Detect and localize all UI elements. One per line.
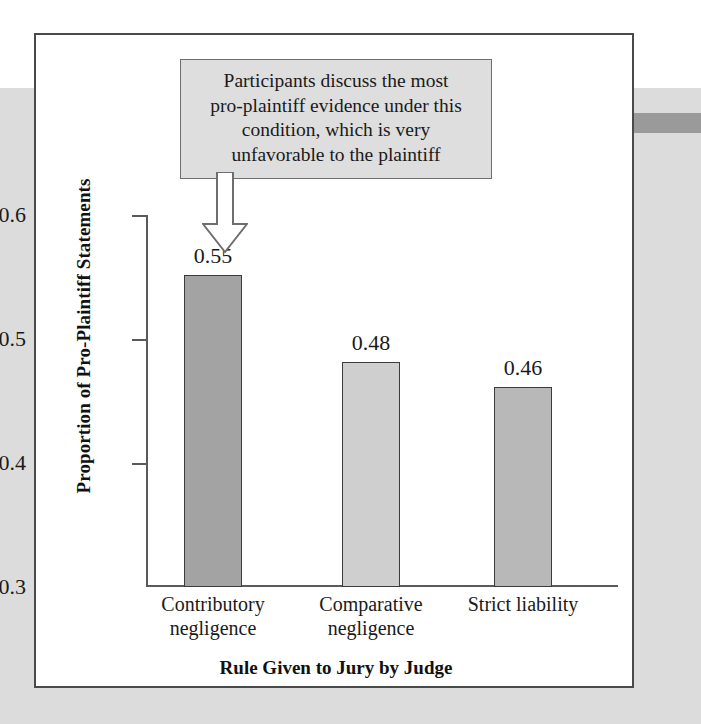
bar-comparative-negligence[interactable]	[342, 362, 400, 587]
x-category-label-strict-liability: Strict liability	[453, 592, 593, 616]
bar-value-label-2: 0.46	[483, 355, 563, 381]
bar-contributory-negligence[interactable]	[184, 275, 242, 587]
x-category-line-2a: Strict liability	[453, 592, 593, 616]
x-category-line-0a: Contributory	[143, 592, 283, 616]
background-band-right-accent	[634, 113, 701, 133]
annotation-callout: Participants discuss the most pro-plaint…	[180, 59, 492, 179]
annotation-arrow-down-icon	[202, 172, 248, 254]
bar-chart-plot: 0.6 0.5 0.4 0.3 Proportion of Pro-Plaint…	[36, 35, 636, 690]
y-tick-label-1: 0.5	[0, 326, 26, 352]
background-band-right	[634, 88, 701, 688]
annotation-line-3: unfavorable to the plaintiff	[191, 143, 481, 168]
x-axis-title: Rule Given to Jury by Judge	[36, 657, 636, 679]
annotation-line-2: condition, which is very	[191, 118, 481, 143]
annotation-line-0: Participants discuss the most	[191, 69, 481, 94]
annotation-line-1: pro-plaintiff evidence under this	[191, 94, 481, 119]
y-tick-label-0: 0.6	[0, 202, 26, 228]
y-tick-label-2: 0.4	[0, 450, 26, 476]
y-tick-mark-1	[132, 339, 148, 341]
y-tick-label-3: 0.3	[0, 574, 26, 600]
x-category-line-1a: Comparative	[301, 592, 441, 616]
y-tick-mark-0	[132, 215, 148, 217]
y-tick-mark-2	[132, 463, 148, 465]
background-band-bottom	[0, 688, 701, 724]
x-category-label-contributory-negligence: Contributory negligence	[143, 592, 283, 641]
x-category-line-1b: negligence	[301, 616, 441, 640]
bar-strict-liability[interactable]	[494, 387, 552, 587]
x-category-line-0b: negligence	[143, 616, 283, 640]
y-axis-title: Proportion of Pro-Plaintiff Statements	[73, 156, 95, 516]
x-category-label-comparative-negligence: Comparative negligence	[301, 592, 441, 641]
bar-value-label-1: 0.48	[331, 330, 411, 356]
chart-frame: 0.6 0.5 0.4 0.3 Proportion of Pro-Plaint…	[34, 33, 634, 688]
y-axis-line	[146, 215, 148, 587]
